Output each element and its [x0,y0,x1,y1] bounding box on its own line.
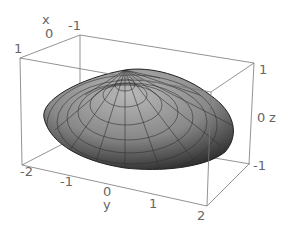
x-axis-label: x [42,12,50,27]
z-axis-label: z [269,110,276,125]
z-tick-m1: -1 [253,158,266,173]
z-tick-1: 1 [259,62,267,77]
y-tick-2: 2 [197,208,205,223]
x-tick-0: 0 [45,26,53,41]
y-axis-label: y [103,197,111,212]
ellipsoid-surface [44,69,234,175]
y-tick-1: 1 [149,196,157,211]
plot-3d: x 0 -1 1 1 0 z -1 -2 -1 0 y 1 2 [0,0,301,233]
z-tick-0: 0 [257,110,265,125]
x-tick-1: 1 [14,41,22,56]
y-tick-m1: -1 [60,174,73,189]
y-tick-m2: -2 [20,164,33,179]
x-tick-m1: -1 [68,18,81,33]
